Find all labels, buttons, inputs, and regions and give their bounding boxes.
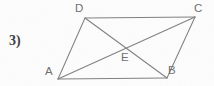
vertex-label-b: B	[168, 64, 176, 76]
segment-side-DC	[85, 17, 195, 18]
vertex-label-d: D	[75, 2, 84, 14]
vertex-label-a: A	[45, 65, 53, 77]
geometry-figure: 3) D C A B E	[0, 0, 214, 86]
parallelogram-diagram	[0, 0, 214, 86]
vertex-label-c: C	[194, 2, 203, 14]
segment-diagonal-DB	[85, 18, 167, 78]
segment-side-BA	[58, 78, 167, 79]
vertex-label-e: E	[121, 51, 129, 63]
segment-side-AD	[58, 18, 85, 79]
